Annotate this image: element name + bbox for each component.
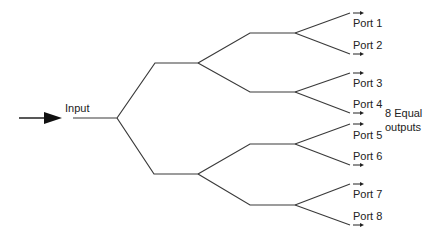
port-1-arrow-icon [353,11,364,15]
port-5-arrow-icon [353,122,364,126]
splitter-level-2 [198,33,295,205]
splitter-level-3 [295,13,350,225]
splitter-diagram: Input Port 1 Port 2 Port 3 Port 4 Po [0,0,438,243]
port-3-label: Port 3 [353,77,382,89]
input-label: Input [65,102,89,114]
port-7-arrow-icon [353,182,364,186]
port-8-arrow-icon [353,223,364,227]
port-3-arrow-icon [353,71,364,75]
port-8-label: Port 8 [353,210,382,222]
port-2-label: Port 2 [353,39,382,51]
port-4-label: Port 4 [353,98,382,110]
annotation-line-2: outputs [385,121,422,133]
port-1-label: Port 1 [353,17,382,29]
splitter-level-1 [73,63,198,174]
port-7-label: Port 7 [353,188,382,200]
annotation-line-1: 8 Equal [385,107,422,119]
port-4-arrow-icon [353,111,364,115]
port-6-label: Port 6 [353,150,382,162]
port-2-arrow-icon [353,52,364,56]
port-5-label: Port 5 [353,129,382,141]
input-arrow-icon [19,112,62,124]
port-6-arrow-icon [353,163,364,167]
